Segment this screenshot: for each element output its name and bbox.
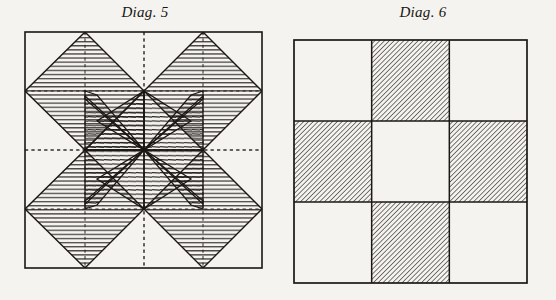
cell-top-middle (372, 40, 450, 121)
diag-6-drawing (290, 0, 556, 300)
plate-page: Diag. 5 (0, 0, 556, 300)
cell-top-left (294, 40, 372, 121)
cell-bottom-middle (372, 202, 450, 283)
cell-top-right (449, 40, 527, 121)
cell-bottom-left (294, 202, 372, 283)
cell-bottom-right (449, 202, 527, 283)
cell-middle-right (449, 121, 527, 202)
figure-title-diag-5: Diag. 5 (0, 4, 290, 21)
diag-6-cells (294, 40, 527, 283)
figure-diag-6: Diag. 6 (290, 0, 556, 300)
cell-middle-left (294, 121, 372, 202)
figure-title-diag-6: Diag. 6 (290, 4, 556, 21)
cell-center (372, 121, 450, 202)
figure-diag-5: Diag. 5 (0, 0, 290, 300)
diag-5-drawing (0, 0, 290, 300)
